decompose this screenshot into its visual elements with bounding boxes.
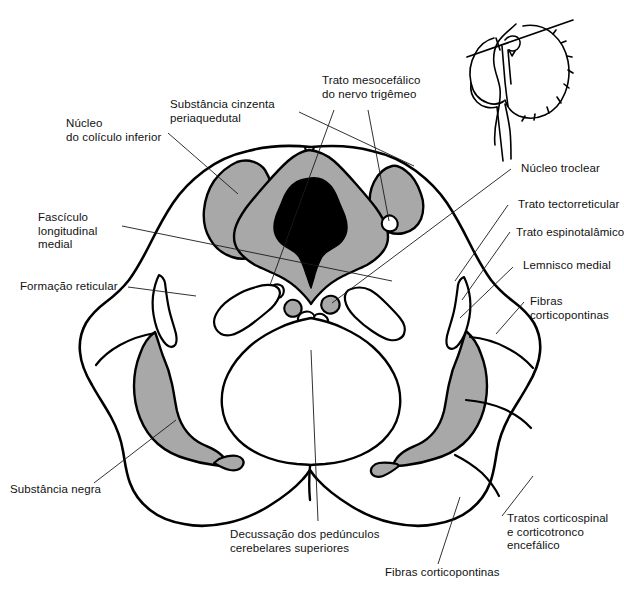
label-fibras-corticopontinas-inferior: Fibras corticopontinas [385, 566, 500, 580]
label-lemnisco-medial: Lemnisco medial [523, 259, 611, 273]
label-trato-mesocefalico: Trato mesocefálico do nervo trigêmeo [322, 74, 421, 101]
brainstem-sagittal-inset [467, 20, 573, 161]
label-trato-tectorreticular: Trato tectorreticular [518, 198, 619, 212]
label-tratos-corticospinal: Tratos corticospinal e corticotronco enc… [507, 512, 608, 553]
label-nucleo-coliculo-inferior: Núcleo do colículo inferior [66, 117, 161, 144]
leader-tratos-corticospinal [502, 476, 533, 516]
label-decussacao-pedunculos: Decussação dos pedúnculos cerebelares su… [230, 528, 380, 555]
mesencephalic-trigeminal-tract-right [382, 216, 398, 232]
label-substancia-cinzenta-periaquedutal: Substância cinzenta periaquedutal [170, 98, 275, 125]
label-trato-espinotalamico: Trato espinotalâmico [516, 226, 624, 240]
label-formacao-reticular: Formação reticular [20, 280, 118, 294]
label-substancia-negra: Substância negra [10, 483, 101, 497]
label-nucleo-troclear: Núcleo troclear [521, 162, 600, 176]
label-fasciculo-longitudinal-medial: Fascículo longitudinal medial [38, 211, 97, 252]
label-fibras-corticopontinas-direita: Fibras corticopontinas [530, 295, 609, 322]
interpeduncular-midline-cleft [309, 466, 310, 500]
trochlear-nucleus-right [321, 296, 339, 314]
